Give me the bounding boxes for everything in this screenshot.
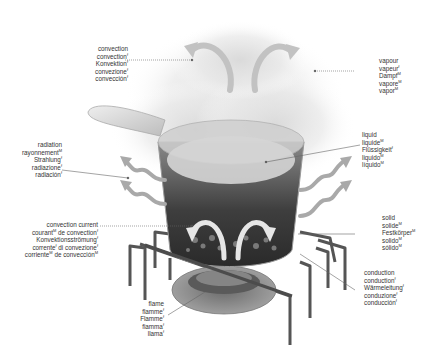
label-flame: flame flammef Flammef fiammaf llamaf — [120, 300, 164, 338]
label-convection: convection convectionf Konvektionf conve… — [66, 45, 128, 83]
label-convection-current: convection current courantM de convectio… — [0, 221, 98, 259]
pot-body — [158, 120, 304, 267]
diagram-stage: convection convectionf Konvektionf conve… — [0, 0, 429, 347]
label-solid: solid solideM FestkörperM solidoM sólido… — [382, 214, 428, 252]
label-conduction: conduction conductionf Wärmeleitungf con… — [364, 269, 428, 307]
label-radiation: radiation rayonnementM Strahlungf radiaz… — [0, 141, 62, 179]
label-liquid: liquid liquideM Flüssigkeitf liquidoM lí… — [362, 131, 422, 169]
label-vapour: vapour vapeurf DampfM vaporeM vaporM — [379, 57, 427, 95]
